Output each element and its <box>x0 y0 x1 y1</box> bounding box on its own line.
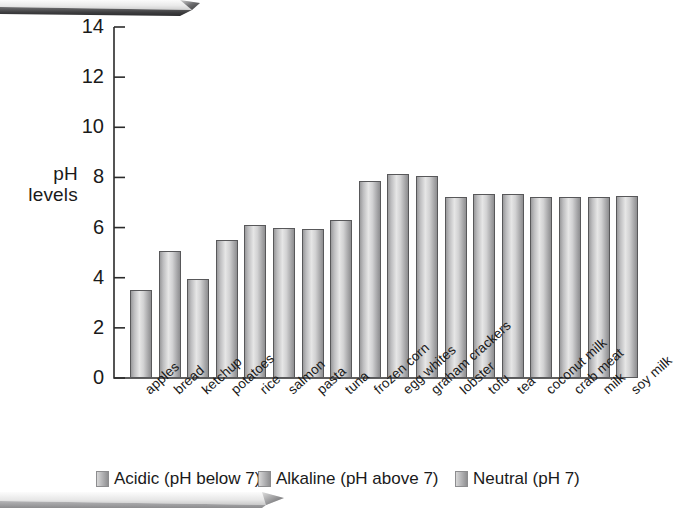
legend-label: Neutral (pH 7) <box>473 469 580 489</box>
legend-swatch-icon <box>258 471 271 487</box>
chart-legend: Acidic (pH below 7)Alkaline (pH above 7)… <box>0 468 650 490</box>
legend-item: Acidic (pH below 7) <box>96 468 260 490</box>
legend-swatch-icon <box>455 471 468 487</box>
legend-label: Alkaline (pH above 7) <box>276 469 439 489</box>
legend-swatch-icon <box>96 471 109 487</box>
legend-label: Acidic (pH below 7) <box>114 469 260 489</box>
legend-item: Alkaline (pH above 7) <box>258 468 439 490</box>
x-axis-label: tea <box>514 373 538 397</box>
legend-item: Neutral (pH 7) <box>455 468 580 490</box>
x-axis-label: soy milk <box>628 353 675 397</box>
